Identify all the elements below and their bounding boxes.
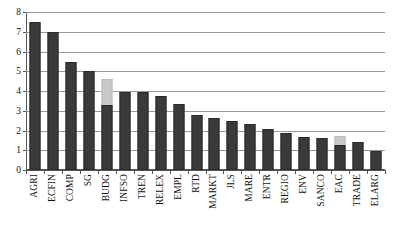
bar-slot xyxy=(98,12,116,170)
bar[interactable] xyxy=(317,138,328,170)
bar-segment-primary xyxy=(137,92,148,170)
bar[interactable] xyxy=(245,124,256,170)
bar-slot xyxy=(295,12,313,170)
bar-segment-primary xyxy=(263,129,274,170)
bar[interactable] xyxy=(209,118,220,170)
x-axis-label-slot: EAC xyxy=(331,174,349,225)
x-axis-tick-label: MARKT xyxy=(210,174,220,209)
bar-segment-primary xyxy=(209,118,220,170)
x-axis-tick-label: AGRI xyxy=(30,174,40,198)
x-axis-tick-label: TRADE xyxy=(353,174,363,206)
bars-group xyxy=(26,12,385,170)
bar[interactable] xyxy=(137,92,148,170)
bar-slot xyxy=(44,12,62,170)
bar-segment-primary xyxy=(371,151,382,170)
bar-segment-primary xyxy=(299,137,310,170)
bar-slot xyxy=(223,12,241,170)
bar-segment-primary xyxy=(281,133,292,170)
x-axis-tick-label: BUDG xyxy=(102,174,112,201)
bar[interactable] xyxy=(83,71,94,170)
x-axis-label-slot: ENTR xyxy=(259,174,277,225)
bar-segment-primary xyxy=(65,62,76,170)
bar-slot xyxy=(116,12,134,170)
bar-slot xyxy=(367,12,385,170)
y-axis-tick-label: 4 xyxy=(2,86,21,96)
x-axis-label-slot: BUDG xyxy=(98,174,116,225)
y-axis-tick-label: 3 xyxy=(2,106,21,116)
bar-slot xyxy=(349,12,367,170)
x-axis-label-slot: TRADE xyxy=(349,174,367,225)
bar[interactable] xyxy=(371,151,382,170)
x-axis-label-slot: ENV xyxy=(295,174,313,225)
bar-segment-primary xyxy=(29,22,40,170)
bar-segment-primary xyxy=(227,121,238,170)
bar[interactable] xyxy=(155,96,166,170)
x-axis-tick-label: MARE xyxy=(246,174,256,202)
bar[interactable] xyxy=(281,133,292,170)
x-axis-label-slot: JLS xyxy=(223,174,241,225)
bar-segment-primary xyxy=(191,115,202,170)
bar[interactable] xyxy=(29,22,40,170)
bar-slot xyxy=(80,12,98,170)
bar[interactable] xyxy=(47,32,58,170)
x-axis-label-slot: MARE xyxy=(241,174,259,225)
bar-slot xyxy=(134,12,152,170)
x-axis-label-slot: EMPL xyxy=(170,174,188,225)
bar-segment-primary xyxy=(83,71,94,170)
bar-slot xyxy=(277,12,295,170)
bar-slot xyxy=(26,12,44,170)
bar-segment-primary xyxy=(47,32,58,170)
x-axis-labels-group: AGRIECFINCOMPSGBUDGINFSOTRENRELEXEMPLRTD… xyxy=(26,174,385,225)
x-axis-tick-label: ECFIN xyxy=(48,174,58,202)
x-axis-label-slot: TREN xyxy=(134,174,152,225)
bar-segment-primary xyxy=(353,142,364,170)
x-axis-tick-label: RELEX xyxy=(156,174,166,205)
bar[interactable] xyxy=(191,115,202,170)
x-axis-label-slot: MARKT xyxy=(206,174,224,225)
bar-slot xyxy=(241,12,259,170)
bar[interactable] xyxy=(227,121,238,170)
bar[interactable] xyxy=(65,62,76,170)
bar[interactable] xyxy=(353,142,364,170)
bar-slot xyxy=(62,12,80,170)
x-axis-tick-label: ELARG xyxy=(371,174,381,206)
x-axis-tick-label: REGIO xyxy=(282,174,292,204)
bar-slot xyxy=(313,12,331,170)
bar[interactable] xyxy=(101,79,112,170)
y-axis-tick-label: 5 xyxy=(2,66,21,76)
x-axis-tick-label: EMPL xyxy=(174,174,184,200)
bar-chart: 012345678 AGRIECFINCOMPSGBUDGINFSOTRENRE… xyxy=(0,0,394,225)
y-axis-tick-label: 1 xyxy=(2,145,21,155)
y-axis-tick-label: 6 xyxy=(2,47,21,57)
bar-slot xyxy=(206,12,224,170)
x-axis-tick-label: COMP xyxy=(66,174,76,201)
x-axis-tick-label: ENTR xyxy=(264,174,274,199)
x-axis-label-slot: RTD xyxy=(188,174,206,225)
bar[interactable] xyxy=(335,136,346,170)
bar-slot xyxy=(188,12,206,170)
x-axis-label-slot: REGIO xyxy=(277,174,295,225)
x-axis-tick-label: INFSO xyxy=(120,174,130,202)
x-axis-label-slot: SANCO xyxy=(313,174,331,225)
bar-slot xyxy=(331,12,349,170)
y-axis-tick-label: 2 xyxy=(2,126,21,136)
y-axis-tick-label: 8 xyxy=(2,7,21,17)
x-axis-label-slot: ECFIN xyxy=(44,174,62,225)
bar-segment-secondary xyxy=(335,136,346,145)
y-axis-tick-label: 0 xyxy=(2,165,21,175)
bar[interactable] xyxy=(299,137,310,170)
bar-slot xyxy=(152,12,170,170)
bar-segment-primary xyxy=(317,138,328,170)
x-axis-tick-label: SANCO xyxy=(317,174,327,207)
bar-segment-secondary xyxy=(101,79,112,105)
x-axis-label-slot: SG xyxy=(80,174,98,225)
bar[interactable] xyxy=(173,104,184,170)
x-axis-label-slot: INFSO xyxy=(116,174,134,225)
bar-segment-primary xyxy=(245,124,256,170)
x-axis-tick-label: JLS xyxy=(228,174,238,189)
x-axis-label-slot: ELARG xyxy=(367,174,385,225)
bar[interactable] xyxy=(119,92,130,170)
x-axis-label-slot: AGRI xyxy=(26,174,44,225)
bar[interactable] xyxy=(263,129,274,170)
x-axis-tick-label: ENV xyxy=(299,174,309,194)
